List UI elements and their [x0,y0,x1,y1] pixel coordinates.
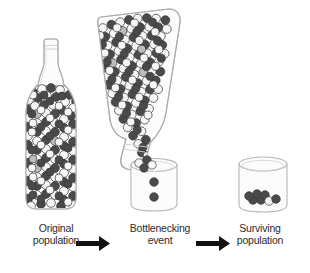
bottleneck-diagram: Original population Bottlenecking event … [0,0,310,273]
label-surviving-population-line1: Surviving [212,222,308,234]
stage-original-population [23,39,81,212]
label-surviving-population: Surviving population [212,222,308,246]
label-original-population: Original population [4,222,108,246]
label-original-population-line1: Original [4,222,108,234]
label-bottlenecking-event-line2: event [108,234,212,246]
label-bottlenecking-event: Bottlenecking event [108,222,212,246]
label-surviving-population-line2: population [212,234,308,246]
label-original-population-line2: population [4,234,108,246]
stage-bottlenecking-event [88,9,191,211]
stage-surviving-population [239,157,287,212]
label-bottlenecking-event-line1: Bottlenecking [108,222,212,234]
bead-cluster-original [23,84,81,212]
